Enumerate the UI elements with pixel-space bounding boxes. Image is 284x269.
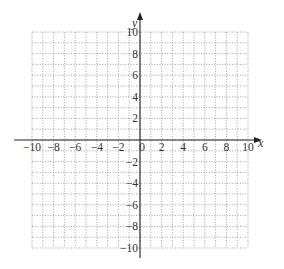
y-tick-label: 2 xyxy=(132,112,138,124)
x-tick-label: 10 xyxy=(242,141,254,153)
y-tick-label: 4 xyxy=(132,91,138,103)
x-tick-label: 6 xyxy=(202,141,208,153)
axes xyxy=(14,12,262,258)
y-tick-label: −6 xyxy=(126,199,138,211)
x-tick-label: −6 xyxy=(69,141,81,153)
y-tick-label: −2 xyxy=(126,156,138,168)
x-tick-label: 4 xyxy=(180,141,186,153)
y-axis-arrow-icon xyxy=(137,12,143,20)
x-tick-label: −10 xyxy=(23,141,41,153)
y-tick-label: −10 xyxy=(120,242,138,254)
x-axis-label: x xyxy=(257,136,264,150)
y-tick-label: −4 xyxy=(126,177,138,189)
x-tick-label: 2 xyxy=(159,141,165,153)
coordinate-grid: −10−8−6−4−20246810108642−2−4−6−8−10 x y xyxy=(0,0,284,269)
x-tick-label: 0 xyxy=(139,141,145,153)
y-tick-label: 6 xyxy=(132,69,138,81)
y-tick-label: −8 xyxy=(126,220,138,232)
x-tick-label: −4 xyxy=(91,141,103,153)
x-tick-label: −2 xyxy=(112,141,124,153)
y-tick-label: 8 xyxy=(132,48,138,60)
y-axis-label: y xyxy=(131,16,138,30)
x-tick-label: −8 xyxy=(47,141,59,153)
x-tick-label: 8 xyxy=(224,141,230,153)
